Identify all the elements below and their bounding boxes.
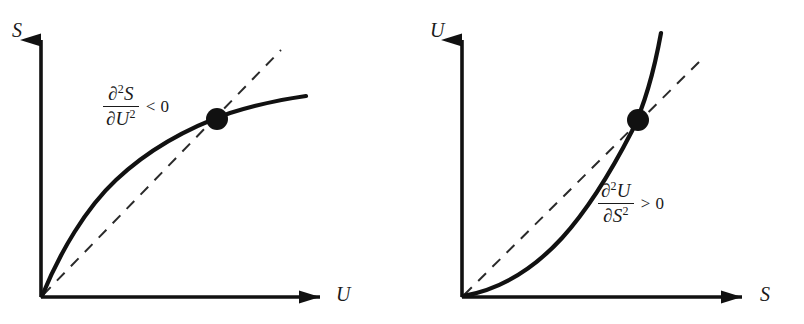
left-concave-curve: [42, 96, 306, 296]
partial-symbol-icon: ∂: [108, 83, 118, 104]
left-second-derivative-formula: ∂2S ∂U2 < 0: [103, 84, 170, 129]
left-formula-numerator: ∂2S: [105, 84, 137, 105]
left-formula-denominator: ∂U2: [103, 109, 139, 130]
left-y-axis-label: S: [12, 20, 22, 40]
right-formula-denominator: ∂S2: [600, 206, 632, 227]
right-formula-fraction: ∂2U ∂S2: [598, 181, 634, 226]
right-second-derivative-formula: ∂2U ∂S2 > 0: [598, 181, 665, 226]
right-relation-symbol: > 0: [641, 195, 665, 212]
left-relation-symbol: < 0: [146, 98, 170, 115]
left-x-axis-label: U: [336, 284, 350, 304]
left-formula-fraction: ∂2S ∂U2: [103, 84, 139, 129]
partial-symbol-icon: ∂: [601, 180, 611, 201]
left-denominator-order: 2: [130, 107, 136, 121]
partial-symbol-icon: ∂: [106, 108, 116, 129]
left-denominator-variable: U: [116, 108, 130, 129]
partial-symbol-icon: ∂: [603, 205, 613, 226]
left-numerator-variable: S: [124, 83, 134, 104]
right-panel-group: [462, 33, 742, 297]
figure-canvas: [0, 0, 804, 324]
right-x-axis-label: S: [760, 284, 770, 304]
right-y-axis-label: U: [430, 20, 444, 40]
right-denominator-variable: S: [613, 205, 623, 226]
right-denominator-order: 2: [622, 204, 628, 218]
right-tangency-dot: [627, 109, 649, 131]
figure-root: S U ∂2S ∂U2 < 0 U S ∂2U ∂S2 > 0: [0, 0, 804, 324]
right-convex-curve: [463, 33, 661, 296]
left-panel-group: [41, 40, 320, 297]
left-tangency-dot: [206, 108, 228, 130]
right-dashed-line: [464, 57, 704, 295]
right-formula-numerator: ∂2U: [598, 181, 634, 202]
right-numerator-variable: U: [617, 180, 631, 201]
